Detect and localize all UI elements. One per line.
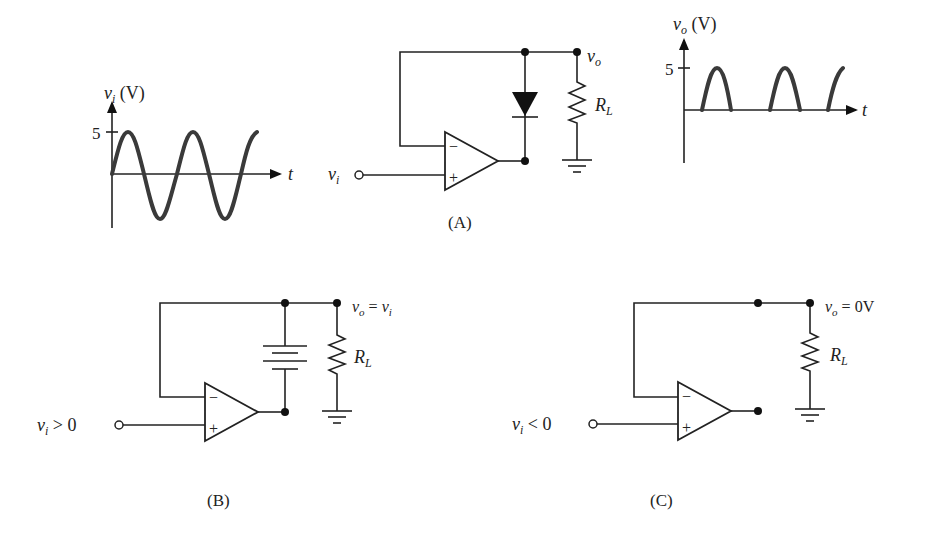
input-waveform-plot: 5 vi (V) t <box>92 83 294 228</box>
feedback-wire <box>400 52 577 146</box>
battery-icon <box>263 346 307 369</box>
opamp-plus: + <box>449 169 458 186</box>
resistor-icon <box>802 303 818 409</box>
resistor-icon <box>329 303 345 411</box>
output-waveform-plot: 5 vo (V) t <box>665 14 868 163</box>
output-label: vo = vi <box>352 298 392 318</box>
output-node-dot <box>573 48 581 56</box>
x-axis-label: t <box>288 164 294 184</box>
diagram-canvas: 5 vi (V) t 5 vo (V) t − + vi RL <box>0 0 928 537</box>
input-terminal <box>115 421 123 429</box>
circuit-a: − + vi RL vo (A) <box>328 46 613 232</box>
circuit-b: − + vi > 0 RL vo = vi (B) <box>37 298 392 510</box>
output-label: vo <box>587 46 601 69</box>
input-label: vi > 0 <box>37 415 77 438</box>
opamp-minus: − <box>449 138 458 155</box>
opamp-minus: − <box>209 389 218 406</box>
circuit-c: − + vi < 0 RL vo = 0V (C) <box>512 298 875 510</box>
opamp-plus: + <box>682 419 691 436</box>
input-label: vi <box>328 164 339 187</box>
input-terminal <box>355 171 363 179</box>
opamp-minus: − <box>682 388 691 405</box>
panel-label-c: (C) <box>650 491 673 510</box>
junction-dot <box>754 299 762 307</box>
junction-dot <box>281 408 289 416</box>
y-tick-label: 5 <box>92 124 101 143</box>
y-axis-label: vo (V) <box>673 14 717 37</box>
junction-dot <box>281 299 289 307</box>
output-node-dot <box>333 299 341 307</box>
resistor-label: RL <box>829 345 848 368</box>
resistor-label: RL <box>353 347 372 370</box>
output-node-dot <box>806 299 814 307</box>
panel-label-a: (A) <box>448 213 472 232</box>
resistor-icon <box>569 52 585 160</box>
junction-dot <box>521 157 529 165</box>
y-axis-label: vi (V) <box>104 83 145 106</box>
x-axis-label: t <box>862 100 868 120</box>
rectified-wave <box>702 68 843 110</box>
output-label: vo = 0V <box>825 298 875 318</box>
opamp-output-dot <box>754 407 762 415</box>
sine-wave <box>112 132 257 219</box>
y-tick-label: 5 <box>665 60 674 79</box>
panel-label-b: (B) <box>207 491 230 510</box>
input-label: vi < 0 <box>512 414 552 437</box>
ground-icon <box>322 411 352 423</box>
junction-dot <box>521 48 529 56</box>
feedback-wire <box>634 303 810 397</box>
diode-icon <box>512 92 538 116</box>
feedback-wire <box>160 303 337 397</box>
ground-icon <box>795 409 825 421</box>
resistor-label: RL <box>594 95 613 118</box>
opamp-plus: + <box>209 420 218 437</box>
ground-icon <box>562 160 592 172</box>
input-terminal <box>589 420 597 428</box>
